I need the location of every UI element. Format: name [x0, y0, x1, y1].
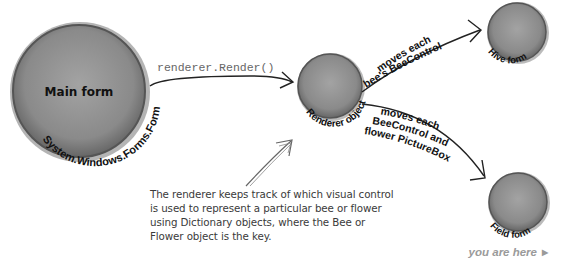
edge-main-to-renderer: renderer.Render(): [150, 61, 293, 88]
annotation-arrow: [246, 140, 292, 186]
triangle-right-icon: ▶: [542, 248, 548, 257]
main-form-node: Main form: [10, 22, 150, 162]
annotation-text: The renderer keeps track of which visual…: [150, 187, 400, 243]
you-are-here-link[interactable]: you are here▶: [469, 246, 548, 258]
render-call-label: renderer.Render(): [157, 61, 274, 74]
main-form-label: Main form: [45, 85, 114, 99]
footer-text: you are here: [469, 246, 537, 258]
